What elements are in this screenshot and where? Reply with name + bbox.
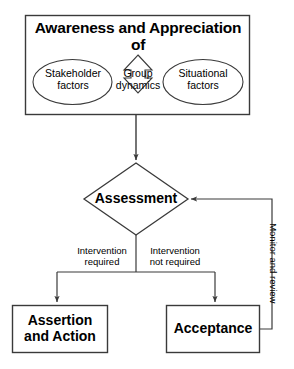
monitor-and-review-label: Monitor and review — [268, 208, 279, 318]
group-dynamics-label: Group dynamics — [110, 68, 166, 92]
situational-factors-label: Situational factors — [163, 68, 243, 92]
flowchart-diagram: Awareness and Appreciation of Stakeholde… — [0, 0, 294, 369]
stakeholder-factors-label: Stakeholder factors — [34, 68, 112, 92]
assessment-label: Assessment — [86, 191, 186, 207]
assertion-and-action-label: Assertion and Action — [14, 313, 106, 344]
awareness-heading: Awareness and Appreciation of — [28, 19, 248, 54]
intervention-required-label: Intervention required — [68, 246, 136, 267]
acceptance-label: Acceptance — [168, 321, 258, 337]
intervention-not-required-label: Intervention not required — [140, 246, 210, 267]
